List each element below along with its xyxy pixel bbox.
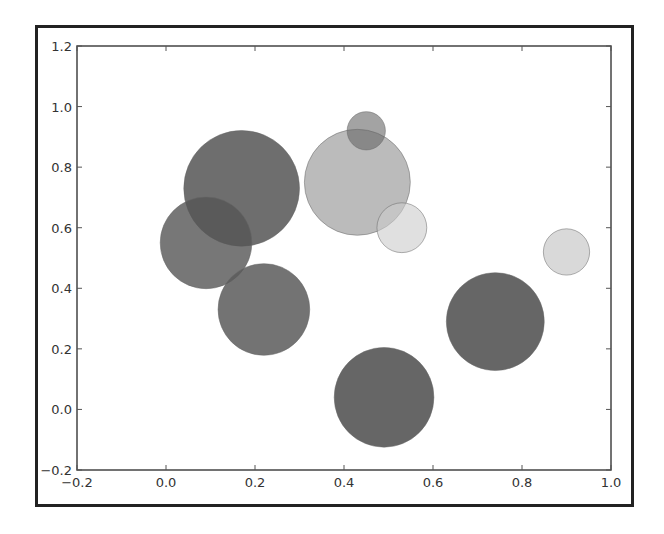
y-tick-label: 1.0 (51, 100, 72, 115)
x-tick-label: 0.2 (245, 475, 266, 490)
bubble-series (160, 112, 589, 447)
x-tick-label: 0.8 (512, 475, 533, 490)
y-tick-label: 0.8 (51, 160, 72, 175)
y-tick-label: 0.2 (51, 342, 72, 357)
y-tick-label: −0.2 (40, 463, 72, 478)
bubble-point (377, 203, 427, 253)
x-tick-label: 0.6 (423, 475, 444, 490)
bubble-point (347, 112, 385, 150)
y-axis: −0.20.00.20.40.60.81.01.2 (40, 39, 611, 478)
x-tick-label: 0.4 (334, 475, 355, 490)
x-tick-label: 0.0 (156, 475, 177, 490)
scatter-chart: −0.20.00.20.40.60.81.0 −0.20.00.20.40.60… (0, 0, 664, 534)
y-tick-label: 0.4 (51, 281, 72, 296)
y-tick-label: 1.2 (51, 39, 72, 54)
bubble-point (334, 347, 434, 447)
x-tick-label: 1.0 (601, 475, 622, 490)
bubble-point (446, 273, 544, 371)
y-tick-label: 0.6 (51, 221, 72, 236)
bubble-point (218, 264, 310, 356)
bubble-point (543, 229, 589, 275)
y-tick-label: 0.0 (51, 402, 72, 417)
